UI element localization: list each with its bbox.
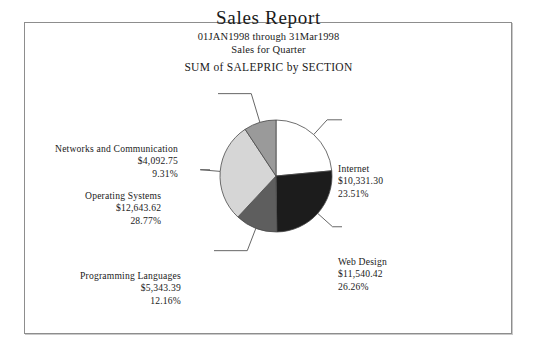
slice-percent: 12.16% — [80, 295, 181, 307]
slice-category: Networks and Communication — [55, 143, 178, 155]
slice-percent: 23.51% — [338, 188, 383, 200]
slice-label-networks-and-communication: Networks and Communication $4,092.75 9.3… — [55, 143, 178, 180]
leader-line — [314, 120, 342, 135]
slice-label-programming-languages: Programming Languages $5,343.39 12.16% — [80, 270, 181, 307]
slice-percent: 9.31% — [55, 168, 178, 180]
slice-category: Programming Languages — [80, 270, 181, 282]
slice-value: $11,540.42 — [338, 268, 387, 280]
slice-value: $5,343.39 — [80, 282, 181, 294]
leader-line — [318, 213, 342, 226]
slice-percent: 28.77% — [85, 215, 161, 227]
slice-percent: 26.26% — [338, 281, 387, 293]
slice-label-internet: Internet $10,331.30 23.51% — [338, 163, 383, 200]
slice-category: Web Design — [338, 256, 387, 268]
pie-chart: Networks and Communication $4,092.75 9.3… — [24, 22, 512, 334]
slice-value: $10,331.30 — [338, 175, 383, 187]
slice-label-operating-systems: Operating Systems $12,643.62 28.77% — [85, 190, 161, 227]
leader-line — [200, 170, 220, 172]
slice-label-web-design: Web Design $11,540.42 26.26% — [338, 256, 387, 293]
slice-value: $12,643.62 — [85, 202, 161, 214]
pie-slice — [276, 120, 332, 176]
slice-category: Operating Systems — [85, 190, 161, 202]
report-page: Sales Report 01JAN1998 through 31Mar1998… — [0, 0, 537, 352]
pie-slices-group — [220, 120, 332, 232]
leader-line — [218, 94, 260, 123]
leader-line — [214, 228, 256, 250]
pie-slice — [276, 171, 332, 232]
slice-category: Internet — [338, 163, 383, 175]
slice-value: $4,092.75 — [55, 155, 178, 167]
